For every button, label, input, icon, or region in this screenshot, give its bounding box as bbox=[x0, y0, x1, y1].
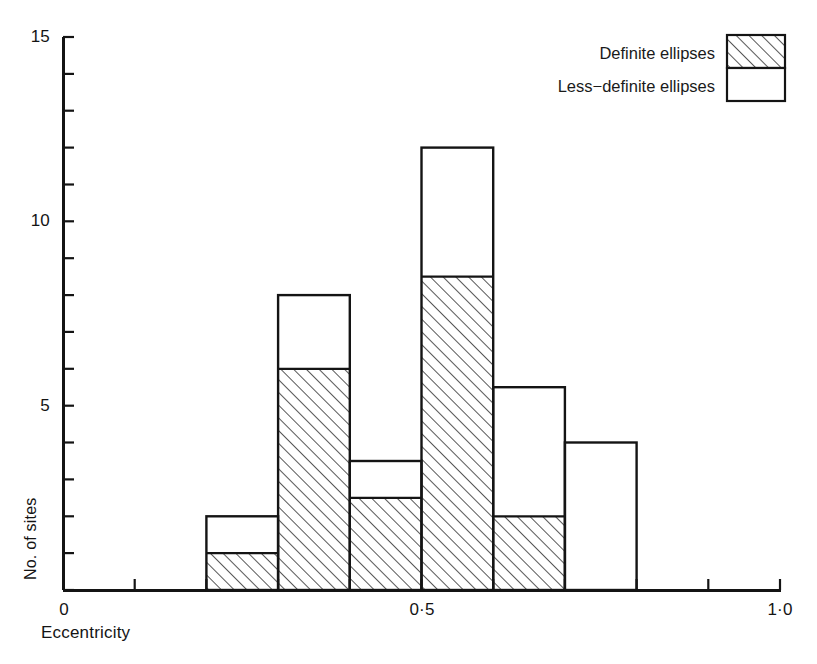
legend-swatches bbox=[727, 35, 785, 101]
chart-canvas bbox=[0, 0, 817, 664]
x-tick-label-1-0: 1·0 bbox=[759, 600, 801, 620]
y-tick-label-5: 5 bbox=[6, 396, 50, 416]
x-tick-label-0-5: 0·5 bbox=[401, 600, 443, 620]
bar-bin-1 bbox=[206, 516, 278, 590]
y-tick-label-10: 10 bbox=[6, 211, 50, 231]
legend-swatch-less-definite bbox=[727, 68, 785, 101]
y-axis-title: No. of sites bbox=[22, 498, 40, 580]
bar-bin-3 bbox=[350, 461, 422, 590]
legend-label-less-definite: Less−definite ellipses bbox=[457, 77, 715, 96]
bar-bin-4 bbox=[422, 148, 494, 590]
bar-bin-5 bbox=[493, 387, 565, 590]
bar-bin-2 bbox=[278, 295, 350, 590]
legend-label-definite: Definite ellipses bbox=[457, 44, 715, 63]
y-tick-label-15: 15 bbox=[6, 27, 50, 47]
x-tick-label-0: 0 bbox=[45, 600, 83, 620]
bar-bin-6 bbox=[565, 443, 637, 591]
histogram-figure: 15 10 5 No. of sites 0 0·5 1·0 Eccentric… bbox=[0, 0, 817, 664]
legend-swatch-definite bbox=[727, 35, 785, 68]
x-axis-title: Eccentricity bbox=[41, 623, 130, 643]
